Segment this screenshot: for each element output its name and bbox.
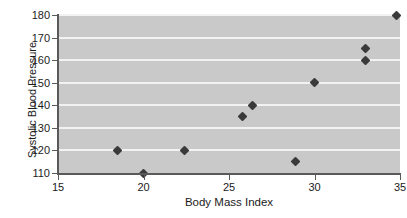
- gridline: [58, 104, 400, 106]
- y-tick-mark: [52, 15, 58, 16]
- x-tick-label: 20: [137, 181, 149, 193]
- gridline: [58, 14, 400, 16]
- data-point: [113, 145, 123, 155]
- data-point: [361, 55, 371, 65]
- gridline: [58, 37, 400, 39]
- data-point: [180, 145, 190, 155]
- x-tick-label: 30: [308, 181, 320, 193]
- x-tick-label: 25: [223, 181, 235, 193]
- x-tick-mark: [58, 175, 59, 180]
- y-axis-title: Systolic Blood Pressure: [26, 20, 38, 180]
- y-tick-mark: [52, 83, 58, 84]
- y-tick-mark: [52, 128, 58, 129]
- gridline: [58, 59, 400, 61]
- scatter-chart: 110120130140150160170180 1520253035 Syst…: [0, 0, 407, 218]
- y-tick-mark: [52, 150, 58, 151]
- x-tick-mark: [144, 175, 145, 180]
- y-tick-mark: [52, 60, 58, 61]
- y-tick-mark: [52, 105, 58, 106]
- data-point: [392, 10, 402, 20]
- x-tick-mark: [400, 175, 401, 180]
- x-tick-mark: [315, 175, 316, 180]
- y-tick-mark: [52, 38, 58, 39]
- x-axis-title: Body Mass Index: [58, 196, 400, 208]
- data-point: [248, 100, 258, 110]
- gridline: [58, 127, 400, 129]
- gridline: [58, 82, 400, 84]
- data-point: [361, 44, 371, 54]
- plot-area: [58, 15, 400, 173]
- x-tick-mark: [229, 175, 230, 180]
- x-tick-label: 15: [52, 181, 64, 193]
- data-point: [291, 157, 301, 167]
- x-tick-label: 35: [394, 181, 406, 193]
- gridline: [58, 149, 400, 151]
- data-point: [310, 78, 320, 88]
- data-point: [238, 112, 248, 122]
- y-tick-mark: [52, 173, 58, 174]
